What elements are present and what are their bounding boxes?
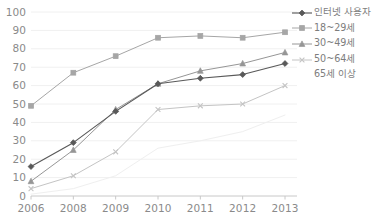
data-point-marker [300, 26, 305, 31]
data-point-marker [28, 178, 34, 184]
legend-marker-icon [291, 20, 313, 34]
y-axis-tick-label: 80 [0, 42, 26, 54]
legend-label: 18~29세 [313, 23, 355, 33]
data-point-marker [240, 72, 246, 78]
data-point-marker [299, 10, 305, 16]
y-axis-tick-label: 50 [0, 98, 26, 110]
x-axis-tick-label: 2012 [221, 202, 265, 214]
legend-item[interactable]: 50~64세 [291, 51, 379, 67]
data-point-marker [28, 164, 34, 170]
data-point-marker [71, 70, 76, 75]
data-point-marker [113, 54, 118, 59]
data-point-marker [198, 34, 203, 39]
data-point-marker [282, 49, 288, 55]
legend-item[interactable]: 인터넷 사용자 [291, 4, 379, 20]
data-point-marker [113, 149, 118, 154]
data-point-marker [29, 103, 34, 108]
legend-item[interactable]: 18~29세 [291, 20, 379, 36]
legend-label: 인터넷 사용자 [313, 7, 371, 17]
y-axis-tick-label: 60 [0, 79, 26, 91]
x-axis-tick-label: 2006 [9, 202, 53, 214]
y-axis-tick-label: 20 [0, 153, 26, 165]
series-line [29, 83, 288, 191]
y-axis-tick-label: 0 [0, 190, 26, 202]
legend-item[interactable]: 65세 이상 [291, 66, 379, 82]
y-axis-tick-label: 10 [0, 171, 26, 183]
data-point-marker [156, 35, 161, 40]
y-axis-tick-label: 90 [0, 24, 26, 36]
x-axis-tick-label: 2009 [94, 202, 138, 214]
legend-marker-icon [291, 67, 313, 81]
data-point-marker [282, 61, 288, 67]
series-line [28, 49, 288, 183]
legend-label: 30~49세 [313, 38, 355, 48]
series-polyline [31, 86, 285, 189]
series-line [31, 115, 285, 194]
series-line [28, 61, 288, 170]
data-point-marker [283, 30, 288, 35]
legend-item[interactable]: 30~49세 [291, 35, 379, 51]
series-polyline [31, 32, 285, 106]
series-polyline [31, 115, 285, 194]
y-axis-tick-label: 100 [0, 6, 26, 18]
y-axis-tick-label: 40 [0, 116, 26, 128]
line-chart: 1009080706050403020100 20062008200920102… [0, 0, 379, 224]
data-point-marker [197, 75, 203, 81]
series-polyline [31, 64, 285, 167]
x-axis-tick-label: 2013 [263, 202, 307, 214]
x-axis-tick-label: 2008 [51, 202, 95, 214]
y-axis-tick-label: 30 [0, 134, 26, 146]
legend-marker-icon [291, 52, 313, 66]
x-axis-tick-label: 2010 [136, 202, 180, 214]
legend-marker-icon [291, 36, 313, 50]
legend-marker-icon [291, 5, 313, 19]
chart-legend: 인터넷 사용자18~29세30~49세50~64세65세 이상 [291, 4, 379, 82]
x-axis-tick-label: 2011 [178, 202, 222, 214]
data-point-marker [240, 35, 245, 40]
series-line [29, 30, 288, 108]
y-axis-tick-label: 70 [0, 61, 26, 73]
series-polyline [31, 52, 285, 181]
legend-label: 65세 이상 [313, 69, 356, 79]
legend-label: 50~64세 [313, 54, 355, 64]
